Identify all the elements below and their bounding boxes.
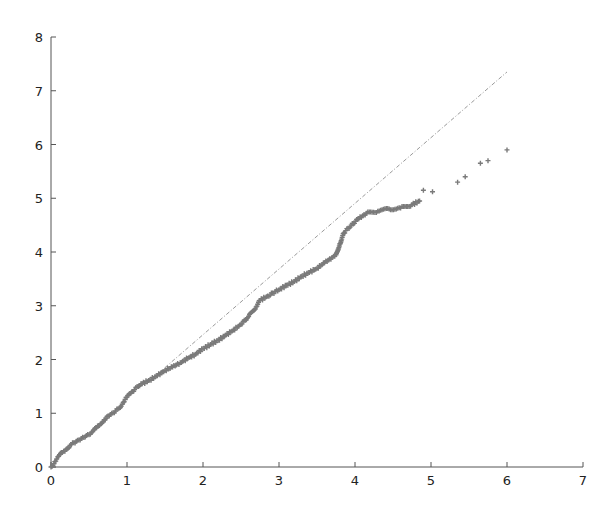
y-tick-label: 1 — [35, 406, 43, 421]
y-tick-label: 3 — [35, 299, 43, 314]
x-tick-label: 5 — [427, 473, 435, 488]
plus-marker — [505, 147, 510, 152]
x-tick-label: 6 — [503, 473, 511, 488]
y-tick-label: 7 — [35, 84, 43, 99]
plus-marker — [478, 161, 483, 166]
x-tick-label: 4 — [351, 473, 359, 488]
x-tick-label: 2 — [199, 473, 207, 488]
y-tick-label: 8 — [35, 30, 43, 45]
qq-plot: 01234567801234567 — [0, 0, 614, 506]
y-tick-label: 0 — [35, 460, 43, 475]
plus-marker — [421, 188, 426, 193]
data-points — [49, 147, 510, 469]
plus-marker — [486, 158, 491, 163]
x-tick-label: 1 — [123, 473, 131, 488]
reference-line — [165, 72, 507, 368]
x-tick-label: 0 — [47, 473, 55, 488]
y-tick-label: 4 — [35, 245, 43, 260]
y-tick-label: 6 — [35, 138, 43, 153]
plus-marker — [430, 189, 435, 194]
plus-marker — [463, 174, 468, 179]
tick-labels: 01234567801234567 — [35, 30, 587, 488]
reference-dashdot-line — [165, 72, 507, 368]
x-tick-label: 7 — [579, 473, 587, 488]
y-tick-label: 2 — [35, 353, 43, 368]
y-tick-label: 5 — [35, 191, 43, 206]
x-tick-label: 3 — [275, 473, 283, 488]
plus-marker — [455, 180, 460, 185]
axes — [51, 37, 583, 467]
